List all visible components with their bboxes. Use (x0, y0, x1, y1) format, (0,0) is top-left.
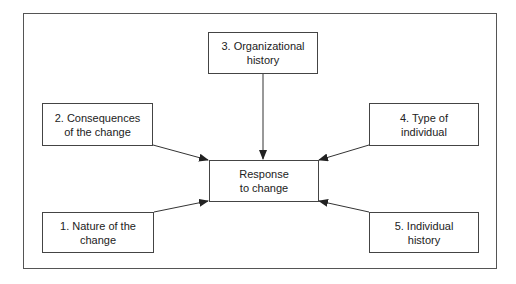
box-consequences: 2. Consequences of the change (42, 103, 153, 146)
box-label-line2: individual (400, 125, 448, 139)
box-label-line1: 5. Individual (395, 219, 454, 233)
box-label-line1: 1. Nature of the (60, 219, 136, 233)
box-label-line2: of the change (55, 125, 141, 139)
center-label-line1: Response (239, 167, 289, 181)
arrow-individual-history (319, 201, 369, 212)
box-individual-history: 5. Individual history (369, 212, 479, 253)
box-label-line1: 3. Organizational (221, 39, 304, 53)
arrow-consequences (153, 145, 208, 160)
box-type-of-individual: 4. Type of individual (369, 103, 479, 146)
arrow-type-individual (319, 145, 369, 160)
center-label-line2: to change (239, 181, 289, 195)
arrow-nature (154, 201, 208, 212)
box-label-line2: history (395, 233, 454, 247)
box-label-line1: 4. Type of (400, 111, 448, 125)
box-label-line2: history (221, 53, 304, 67)
box-nature-of-change: 1. Nature of the change (42, 212, 154, 253)
box-organizational-history: 3. Organizational history (208, 32, 318, 74)
box-label-line2: change (60, 233, 136, 247)
box-label-line1: 2. Consequences (55, 111, 141, 125)
box-response-to-change: Response to change (209, 160, 319, 202)
